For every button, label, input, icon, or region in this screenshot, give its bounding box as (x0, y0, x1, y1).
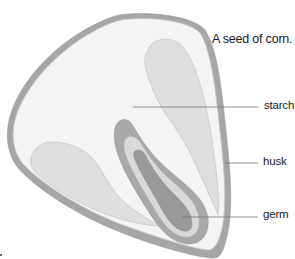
stray-dot (0, 254, 2, 256)
label-starch: starch (264, 99, 294, 111)
label-germ: germ (263, 208, 288, 220)
label-husk: husk (263, 155, 287, 167)
diagram-title: A seed of corn. (212, 32, 292, 46)
